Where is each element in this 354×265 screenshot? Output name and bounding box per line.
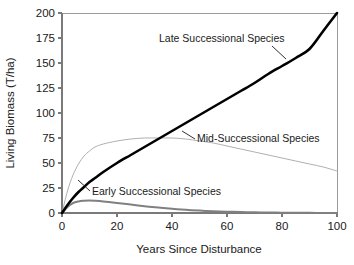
x-tick-label: 60 <box>221 220 234 232</box>
x-tick-label: 20 <box>111 220 124 232</box>
y-tick-label: 75 <box>42 132 55 144</box>
x-axis-title: Years Since Disturbance <box>136 243 262 255</box>
y-tick-label: 150 <box>36 57 55 69</box>
series-label-late: Late Successional Species <box>159 32 285 44</box>
y-tick-label: 200 <box>36 7 55 19</box>
series-label-early: Early Successional Species <box>92 185 221 197</box>
y-tick-label: 175 <box>36 32 55 44</box>
x-tick-label: 0 <box>59 220 65 232</box>
chart-figure: 0255075100125150175200 020406080100 Late… <box>0 0 354 265</box>
y-axis-title: Living Biomass (T/ha) <box>4 57 16 168</box>
x-tick-label: 40 <box>166 220 179 232</box>
y-tick-label: 0 <box>49 207 55 219</box>
x-tick-label: 80 <box>276 220 289 232</box>
y-tick-label: 50 <box>42 157 55 169</box>
x-tick-label: 100 <box>327 220 346 232</box>
y-tick-label: 25 <box>42 182 55 194</box>
series-label-mid: Mid-Successional Species <box>197 132 320 144</box>
y-tick-label: 125 <box>36 82 55 94</box>
chart-canvas: 0255075100125150175200 020406080100 Late… <box>0 0 354 265</box>
y-tick-label: 100 <box>36 107 55 119</box>
